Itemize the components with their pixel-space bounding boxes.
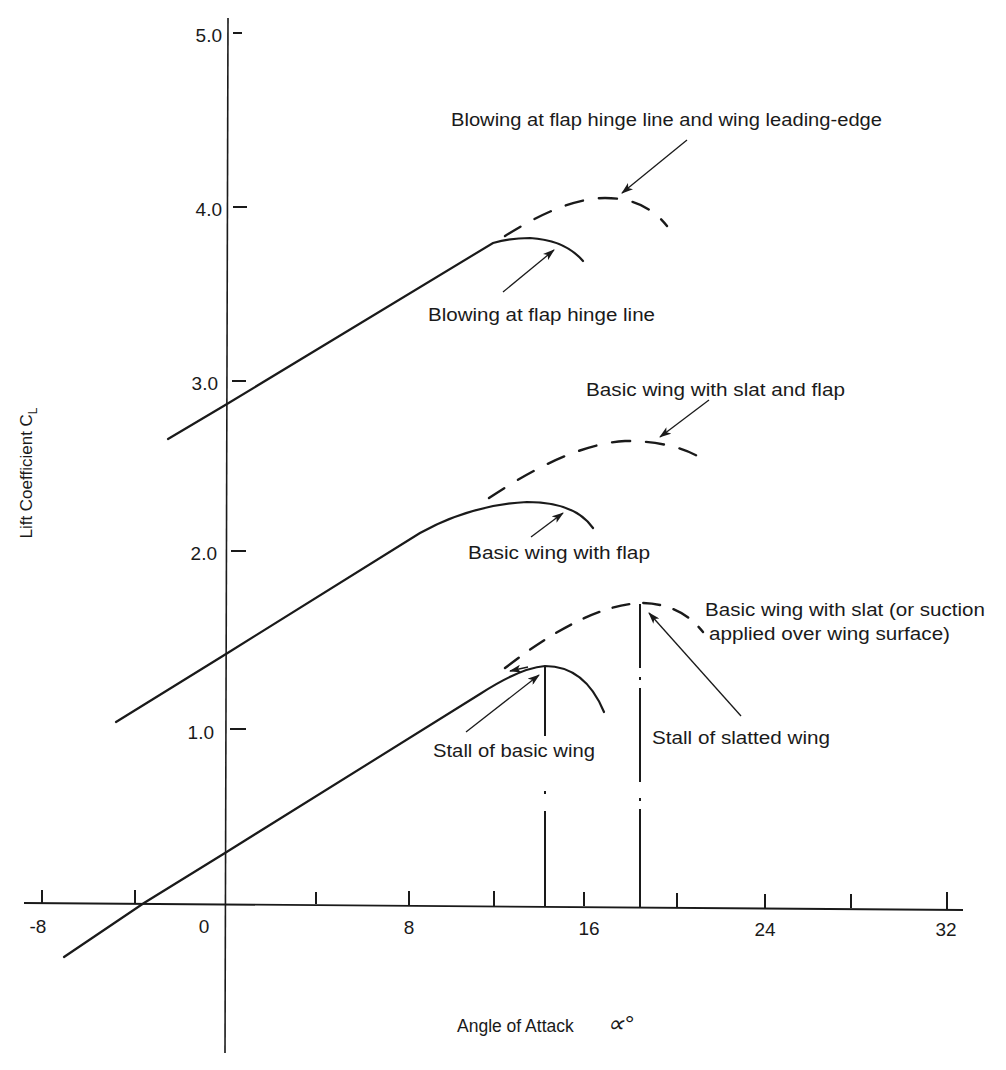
x-tick-label-32: 32	[935, 919, 956, 940]
lift-coefficient-chart: 5.0 4.0 3.0 2.0 1.0 -8 0 8 16 24 32 Angl…	[0, 0, 1006, 1070]
arrow-slat-flap	[660, 400, 709, 437]
arrow-flap	[531, 513, 563, 537]
label-stall-basic: Stall of basic wing	[433, 741, 595, 761]
y-axis-title: Lift Coefficient CL	[17, 407, 40, 538]
label-slat-line2: applied over wing surface)	[709, 624, 950, 644]
x-tick-label-16: 16	[578, 918, 599, 939]
y-tick-label-4: 4.0	[196, 199, 222, 220]
x-tick-label-m8: -8	[30, 916, 47, 937]
y-axis-title-subscript: L	[26, 407, 40, 414]
y-tick-labels: 5.0 4.0 3.0 2.0 1.0	[188, 25, 222, 743]
curve-blowing-hinge	[168, 238, 583, 439]
label-flap: Basic wing with flap	[468, 543, 650, 563]
y-tick-label-5: 5.0	[196, 25, 222, 46]
curve-basic-wing-slat-flap	[489, 441, 701, 498]
x-axis-title: Angle of Attack	[457, 1016, 574, 1036]
label-slat-flap: Basic wing with slat and flap	[586, 380, 845, 400]
y-tick-label-2: 2.0	[191, 543, 217, 564]
x-tick-labels: -8 0 8 16 24 32	[30, 916, 957, 940]
alpha-degree-symbol: ∝°	[607, 1010, 634, 1037]
arrow-blowing-hinge	[503, 250, 554, 292]
curve-basic-wing-slat	[505, 603, 703, 668]
arrow-blowing-le	[622, 140, 687, 193]
y-axis-line	[225, 18, 228, 1053]
curve-basic-wing	[64, 666, 604, 957]
label-stall-slat: Stall of slatted wing	[652, 728, 830, 748]
x-tick-label-8: 8	[404, 917, 415, 938]
label-slat-line1: Basic wing with slat (or suction	[705, 600, 985, 620]
y-axis-title-main: Lift Coefficient C	[17, 414, 36, 538]
label-blowing-le: Blowing at flap hinge line and wing lead…	[451, 110, 882, 130]
y-tick-label-3: 3.0	[192, 373, 218, 394]
y-ticks	[230, 33, 247, 729]
label-blowing-hinge: Blowing at flap hinge line	[428, 305, 655, 325]
arrow-stall-basic	[466, 675, 539, 732]
x-tick-label-24: 24	[754, 919, 776, 940]
annotation-arrows	[466, 140, 741, 732]
curve-blowing-hinge-le	[505, 198, 667, 236]
y-tick-label-1: 1.0	[188, 722, 214, 743]
x-tick-label-0: 0	[199, 916, 210, 937]
